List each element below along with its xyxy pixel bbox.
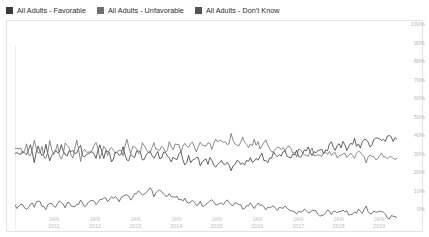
x-axis-tick-year: 2012 [89, 223, 101, 230]
x-axis-tick: JAN2013 [129, 216, 141, 229]
legend-swatch-dont-know [195, 7, 202, 14]
legend-item-unfavorable[interactable]: All Adults - Unfavorable [97, 6, 184, 15]
legend-label-dont-know: All Adults - Don't Know [206, 6, 280, 15]
legend-swatch-favorable [6, 7, 13, 14]
y-axis-tick: 20% [414, 169, 425, 175]
x-axis: JAN2011JAN2012JAN2013JAN2014JAN2015JAN20… [6, 216, 423, 237]
x-axis-tick-month: JAN [292, 216, 304, 223]
y-axis-tick: 60% [414, 95, 425, 101]
x-axis-tick-month: JAN [211, 216, 223, 223]
legend-item-dont-know[interactable]: All Adults - Don't Know [195, 6, 280, 15]
y-axis-tick: 30% [414, 151, 425, 157]
y-axis-tick: 70% [414, 77, 425, 83]
x-axis-tick-month: JAN [129, 216, 141, 223]
x-axis-tick: JAN2015 [211, 216, 223, 229]
legend-label-unfavorable: All Adults - Unfavorable [108, 6, 184, 15]
legend-label-favorable: All Adults - Favorable [17, 6, 86, 15]
x-axis-tick-month: JAN [89, 216, 101, 223]
chart-widget: All Adults - Favorable All Adults - Unfa… [0, 0, 429, 237]
x-axis-tick-month: JAN [251, 216, 263, 223]
y-axis-tick: 100% [411, 21, 425, 27]
y-axis-tick: 0% [417, 206, 425, 212]
legend-item-favorable[interactable]: All Adults - Favorable [6, 6, 86, 15]
y-axis-tick: 50% [414, 114, 425, 120]
x-axis-tick-year: 2011 [48, 223, 60, 230]
x-axis-tick-month: JAN [333, 216, 345, 223]
chart-legend: All Adults - Favorable All Adults - Unfa… [0, 0, 429, 20]
x-axis-tick: JAN2017 [292, 216, 304, 229]
x-axis-tick-month: JAN [48, 216, 60, 223]
x-axis-tick: JAN2016 [251, 216, 263, 229]
chart-frame [6, 20, 423, 232]
x-axis-tick: JAN2012 [89, 216, 101, 229]
x-axis-tick-year: 2019 [373, 223, 385, 230]
x-axis-tick: JAN2019 [373, 216, 385, 229]
x-axis-tick-month: JAN [373, 216, 385, 223]
series-line [15, 188, 397, 219]
series-line [15, 136, 397, 171]
x-axis-tick-month: JAN [170, 216, 182, 223]
x-axis-tick-year: 2014 [170, 223, 182, 230]
x-axis-tick-year: 2018 [333, 223, 345, 230]
y-axis-tick: 40% [414, 132, 425, 138]
x-axis-tick-year: 2013 [129, 223, 141, 230]
x-axis-tick: JAN2011 [48, 216, 60, 229]
x-axis-tick-year: 2016 [251, 223, 263, 230]
plot-area [15, 45, 397, 230]
y-axis: 100%90%80%70%60%50%40%30%20%10%0% [401, 20, 427, 216]
x-axis-tick-year: 2017 [292, 223, 304, 230]
x-axis-tick-year: 2015 [211, 223, 223, 230]
y-axis-tick: 10% [414, 188, 425, 194]
x-axis-tick: JAN2014 [170, 216, 182, 229]
legend-swatch-unfavorable [97, 7, 104, 14]
x-axis-tick: JAN2018 [333, 216, 345, 229]
y-axis-tick: 80% [414, 58, 425, 64]
series-lines-svg [15, 45, 397, 230]
y-axis-tick: 90% [414, 40, 425, 46]
